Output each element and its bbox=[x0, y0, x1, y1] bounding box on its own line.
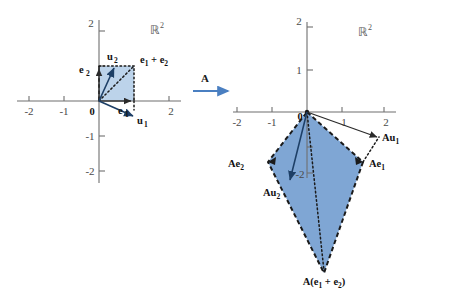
right-xlabel--2: -2 bbox=[232, 116, 241, 128]
e2-label-text: e bbox=[79, 64, 84, 75]
left-ylabel-2: 2 bbox=[88, 17, 94, 29]
left-xlabel--1: -1 bbox=[59, 105, 68, 117]
left-xlabel-2: 2 bbox=[168, 105, 174, 117]
Asum-pre: A(e bbox=[303, 276, 319, 288]
Ae2-label-text: Ae2 bbox=[228, 158, 244, 172]
Ae1-text: Ae bbox=[369, 158, 382, 169]
u1-label-sub: 1 bbox=[144, 120, 148, 129]
left-space-label: ℝ 2 bbox=[150, 21, 164, 37]
e1-label-sub: 1 bbox=[125, 110, 129, 119]
u2-label-sub: 2 bbox=[114, 56, 118, 65]
u2-label: u 2 bbox=[107, 51, 118, 65]
left-ylabel--2: -2 bbox=[85, 165, 94, 177]
left-origin-label: 0 bbox=[89, 106, 94, 117]
e1plus-plus: + bbox=[148, 54, 159, 65]
right-xlabel--1: -1 bbox=[267, 116, 276, 128]
Ae2-sub: 2 bbox=[240, 163, 244, 172]
A-e1-plus-e2-text: A(e1 + e2) bbox=[303, 276, 346, 290]
e1-plus-e2-text: e1 + e2 bbox=[140, 54, 168, 68]
right-panel: -2 -1 1 2 2 1 -2 0 ℝ 2 bbox=[228, 15, 399, 290]
right-space-exponent: 2 bbox=[368, 23, 372, 32]
Ae2-label: Ae2 bbox=[228, 158, 244, 172]
e1-plus-e2-label: e1 + e2 bbox=[140, 54, 168, 68]
Asum-post: ) bbox=[342, 276, 346, 288]
Au2-label-text: Au2 bbox=[263, 187, 280, 201]
e1-label-text: e bbox=[118, 105, 123, 116]
A-e1-plus-e2-label: A(e1 + e2) bbox=[303, 276, 346, 290]
operator-label: A bbox=[201, 72, 209, 84]
u2-label-text: u bbox=[107, 51, 113, 62]
u1-label: u 1 bbox=[137, 115, 148, 129]
left-ylabel--1: -1 bbox=[85, 130, 94, 142]
Au1-sub: 1 bbox=[395, 137, 399, 146]
Au2-text: Au bbox=[263, 187, 277, 198]
Au1-label: Au1 bbox=[382, 132, 399, 146]
left-space-letter: ℝ bbox=[150, 23, 160, 37]
linear-transformation-figure: -2 -1 2 2 -1 -2 0 ℝ 2 bbox=[0, 0, 453, 296]
Ae1-label-text: Ae1 bbox=[369, 158, 385, 172]
e2-label: e 2 bbox=[79, 64, 90, 78]
Asum-mid: + e bbox=[322, 276, 338, 287]
Ae2-text: Ae bbox=[228, 158, 241, 169]
left-space-exponent: 2 bbox=[160, 21, 164, 30]
Ae1-sub: 1 bbox=[381, 163, 385, 172]
right-ylabel--2: -2 bbox=[295, 168, 304, 180]
Au1-text: Au bbox=[382, 132, 396, 143]
right-space-letter: ℝ bbox=[358, 25, 368, 39]
e1plus-sub2: 2 bbox=[164, 59, 168, 68]
right-xlabel-2: 2 bbox=[383, 116, 389, 128]
Ae1-label: Ae1 bbox=[369, 158, 385, 172]
right-ylabel-1: 1 bbox=[296, 64, 302, 76]
right-space-label: ℝ 2 bbox=[358, 23, 372, 39]
operator-arrow-group: A bbox=[193, 72, 228, 91]
left-panel: -2 -1 2 2 -1 -2 0 ℝ 2 bbox=[17, 17, 181, 183]
left-xlabel--2: -2 bbox=[24, 105, 33, 117]
right-ylabel-2: 2 bbox=[296, 15, 302, 27]
Au2-label: Au2 bbox=[263, 187, 280, 201]
Au1-label-text: Au1 bbox=[382, 132, 399, 146]
figure-svg: -2 -1 2 2 -1 -2 0 ℝ 2 bbox=[0, 0, 453, 296]
e2-label-sub: 2 bbox=[86, 69, 90, 78]
Au2-sub: 2 bbox=[276, 192, 280, 201]
u1-label-text: u bbox=[137, 115, 143, 126]
